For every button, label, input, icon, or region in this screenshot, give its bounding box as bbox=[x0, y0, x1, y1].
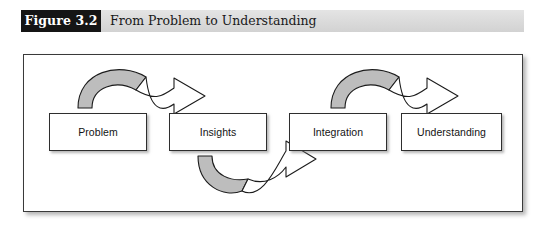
node-label: Problem bbox=[78, 126, 117, 138]
diagram-panel: Problem Insights Integration Understandi… bbox=[23, 54, 523, 212]
figure-root: Figure 3.2 From Problem to Understanding bbox=[0, 0, 545, 232]
arrow-band-white-right bbox=[389, 77, 458, 114]
figure-number-label: Figure 3.2 bbox=[21, 10, 101, 32]
arrow-integration-to-understanding bbox=[331, 70, 458, 114]
arrow-band-white-right bbox=[136, 77, 205, 114]
arrow-band-gray-left bbox=[331, 70, 399, 108]
arrow-problem-to-insights bbox=[78, 70, 205, 114]
figure-caption-text: From Problem to Understanding bbox=[110, 10, 317, 32]
node-label: Understanding bbox=[417, 126, 486, 138]
arrow-band-gray-left bbox=[78, 70, 146, 108]
node-integration[interactable]: Integration bbox=[289, 113, 387, 151]
node-insights[interactable]: Insights bbox=[169, 113, 267, 151]
node-label: Integration bbox=[313, 126, 363, 138]
node-understanding[interactable]: Understanding bbox=[401, 113, 502, 151]
node-problem[interactable]: Problem bbox=[49, 113, 147, 151]
arrow-band-gray-left bbox=[198, 156, 248, 193]
node-label: Insights bbox=[200, 126, 237, 138]
